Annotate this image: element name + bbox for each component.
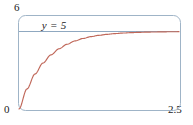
figure-container: 6 0 2.5 y = 5 — [0, 0, 193, 125]
plot-area — [0, 0, 193, 125]
asymptote-label: y = 5 — [42, 19, 67, 31]
solution-curve — [19, 32, 179, 109]
